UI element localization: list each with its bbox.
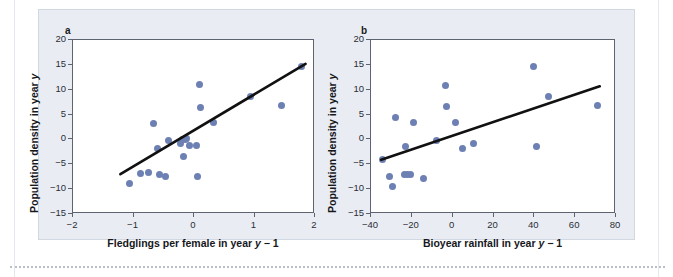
page-rule-left (14, 0, 15, 277)
panel-b-regression-line (339, 10, 636, 241)
page-dotted-separator (10, 266, 665, 268)
panel-a: a Population density in year y Fledgling… (39, 10, 339, 241)
panel-a-regression-line (39, 10, 339, 241)
page-rule-right (658, 0, 659, 277)
figure-container: a Population density in year y Fledgling… (38, 9, 635, 240)
panel-b: b Population density in year y Bioyear r… (339, 10, 636, 241)
